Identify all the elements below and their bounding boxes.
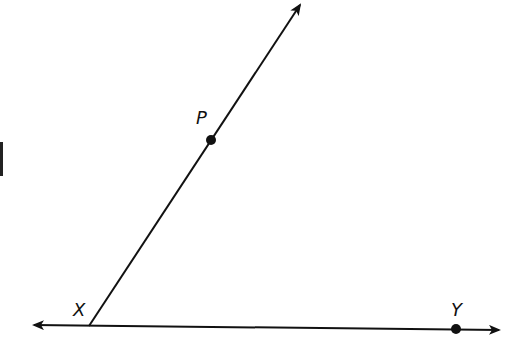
point-p <box>206 135 216 145</box>
label-p: P <box>196 107 207 128</box>
line-xy <box>34 325 499 330</box>
edge-mark <box>0 142 3 176</box>
ray-xp <box>89 5 300 326</box>
label-x: X <box>72 299 86 320</box>
angle-diagram: P X Y <box>0 0 517 360</box>
point-y <box>451 324 461 334</box>
label-y: Y <box>451 299 464 320</box>
